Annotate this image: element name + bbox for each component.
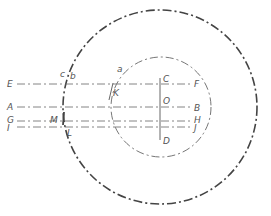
label-a: A [6, 102, 13, 112]
label-b: B [194, 103, 200, 113]
label-f: F [194, 79, 200, 89]
label-j: J [192, 123, 197, 133]
label-c-small: c [60, 69, 65, 79]
label-i: I [7, 123, 10, 133]
label-a-small: a [117, 64, 123, 74]
label-d: D [163, 136, 170, 146]
label-k: K [113, 88, 120, 98]
label-e: E [7, 79, 13, 89]
label-o: O [163, 96, 170, 106]
label-c: C [163, 74, 170, 84]
label-l: L [67, 128, 72, 138]
label-m: M [50, 115, 58, 125]
outer-arc-highlight [63, 112, 64, 125]
construction-diagram: E F A B G H I J C D O K L M a b c [0, 0, 271, 216]
label-b-small: b [70, 71, 76, 81]
